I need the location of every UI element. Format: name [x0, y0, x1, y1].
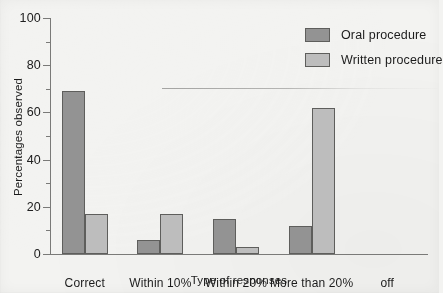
y-tick-label: 80 [27, 58, 41, 72]
y-axis-title: Percentages observed [10, 18, 26, 255]
y-tick-minor [46, 89, 50, 90]
y-tick-major [43, 254, 50, 255]
y-tick-label: 20 [27, 200, 41, 214]
chart-legend: Oral procedureWritten procedure [305, 22, 443, 72]
legend-swatch [305, 53, 330, 67]
bar-written [236, 247, 259, 254]
y-tick-major [43, 65, 50, 66]
bar-written [312, 108, 335, 254]
legend-swatch [305, 28, 330, 42]
y-tick-label: 40 [27, 153, 41, 167]
legend-label: Written procedure [341, 53, 443, 67]
y-axis-title-text: Percentages observed [12, 77, 24, 195]
bar-written [160, 214, 183, 254]
bar-oral [213, 219, 236, 254]
x-axis-title: Type of responses [50, 274, 428, 286]
y-tick-minor [46, 230, 50, 231]
bar-oral [137, 240, 160, 254]
bar-oral [62, 91, 85, 254]
y-tick-minor [46, 42, 50, 43]
y-tick-major [43, 18, 50, 19]
y-tick-label: 100 [20, 11, 41, 25]
y-tick-major [43, 160, 50, 161]
legend-item: Written procedure [305, 47, 443, 72]
y-tick-minor [46, 136, 50, 137]
x-axis-line [50, 254, 428, 255]
y-tick-major [43, 112, 50, 113]
bar-written [85, 214, 108, 254]
y-tick-minor [46, 183, 50, 184]
legend-item: Oral procedure [305, 22, 443, 47]
y-tick-label: 60 [27, 105, 41, 119]
y-axis-line [50, 18, 51, 255]
x-axis-title-text: Type of responses [191, 274, 288, 286]
legend-label: Oral procedure [341, 28, 426, 42]
bar-oral [289, 226, 312, 254]
y-tick-label: 0 [34, 247, 41, 261]
y-tick-major [43, 207, 50, 208]
